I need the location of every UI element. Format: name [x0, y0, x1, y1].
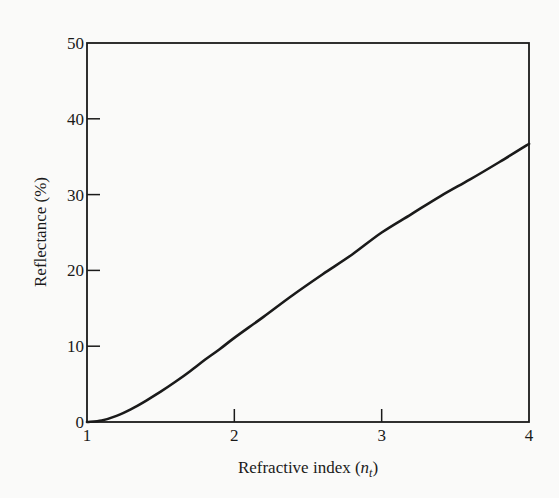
plot-frame [87, 43, 529, 422]
y-axis-ticks: 01020304050 [67, 34, 100, 432]
y-tick-label: 10 [67, 337, 84, 356]
x-axis-ticks: 1234 [83, 409, 534, 445]
y-tick-label: 40 [67, 110, 84, 129]
x-tick-label: 3 [377, 426, 386, 445]
x-axis-title-close: ) [372, 458, 378, 477]
plot-border [87, 43, 529, 422]
x-axis-title-var: n [361, 458, 370, 477]
y-axis-title: Reflectance (%) [31, 177, 50, 287]
x-tick-label: 4 [525, 426, 534, 445]
reflectance-chart: 01020304050 1234 Reflectance (%) Refract… [0, 0, 559, 498]
y-tick-label: 20 [67, 261, 84, 280]
y-tick-label: 50 [67, 34, 84, 53]
y-tick-label: 30 [67, 186, 84, 205]
x-axis-title: Refractive index (nt) [238, 458, 378, 480]
x-tick-label: 1 [83, 426, 92, 445]
x-axis-title-main: Refractive index ( [238, 458, 361, 477]
x-tick-label: 2 [230, 426, 239, 445]
reflectance-curve [87, 144, 529, 422]
